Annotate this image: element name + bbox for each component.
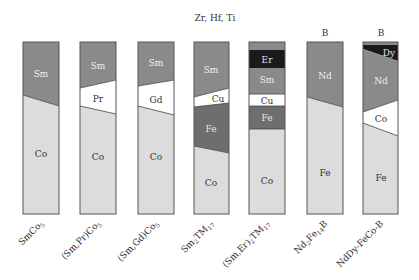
category-label-smco5: SmCo5	[17, 218, 47, 248]
bar-smpr-co5: Sm Pr Co	[80, 42, 116, 214]
segment-fe	[307, 97, 343, 214]
category-label-nd2fe14b: Nd2Fe14B	[292, 218, 330, 256]
bar-smer2tm17: Er Sm Cu Fe Co	[249, 42, 285, 214]
composition-diagram: Zr, Hf, Ti Sm Co Sm Pr Co Sm Gd Co	[0, 0, 419, 280]
segment-label: Fe	[375, 173, 386, 183]
segment-co	[249, 129, 285, 214]
segment-label: Nd	[318, 71, 332, 81]
segment-label: Nd	[374, 76, 388, 86]
segment-label: Co	[35, 149, 47, 159]
category-label-sm2tm17: Sm2TM17	[179, 218, 216, 255]
additive-elements-label: Zr, Hf, Ti	[195, 13, 236, 23]
segment-label: Fe	[205, 124, 216, 134]
boron-label: B	[322, 28, 329, 38]
segment-label: Dy	[383, 48, 396, 58]
category-label-smer2tm17: (Sm,Er)2TM17	[220, 218, 272, 270]
category-label-smgd-co5: (Sm,Gd)Co5	[115, 218, 161, 264]
segment-label: Co	[92, 152, 104, 162]
bar-sm2tm17: Sm Cu Fe Co	[194, 42, 229, 214]
segment-label: Fe	[261, 113, 272, 123]
category-label-nddy-feco-b: NdDy-FeCo-B	[334, 218, 385, 269]
segment-label: Sm	[260, 75, 275, 85]
segment-additive	[249, 42, 285, 50]
segment-label: Cu	[212, 94, 225, 104]
segment-label: Co	[205, 178, 217, 188]
category-label-smpr-co5: (Sm,Pr)Co5	[59, 218, 103, 262]
segment-label: Sm	[34, 69, 49, 79]
segment-fe	[363, 123, 398, 214]
bar-nd2fe14b: B Nd Fe	[307, 28, 343, 214]
segment-label: Sm	[204, 65, 219, 75]
bar-smgd-co5: Sm Gd Co	[138, 42, 174, 214]
segment-label: Co	[150, 152, 162, 162]
segment-label: Er	[262, 55, 274, 65]
bar-smco5: Sm Co	[23, 42, 59, 214]
segment-label: Cu	[261, 96, 274, 106]
segment-label: Co	[261, 176, 273, 186]
segment-label: Sm	[149, 58, 164, 68]
segment-label: Pr	[93, 94, 104, 104]
bar-nddy-feco-b: B Dy Nd Co Fe	[363, 28, 398, 214]
segment-label: Co	[375, 114, 387, 124]
boron-label: B	[378, 28, 385, 38]
segment-label: Sm	[91, 61, 106, 71]
segment-label: Gd	[150, 95, 163, 105]
segment-label: Fe	[319, 168, 330, 178]
